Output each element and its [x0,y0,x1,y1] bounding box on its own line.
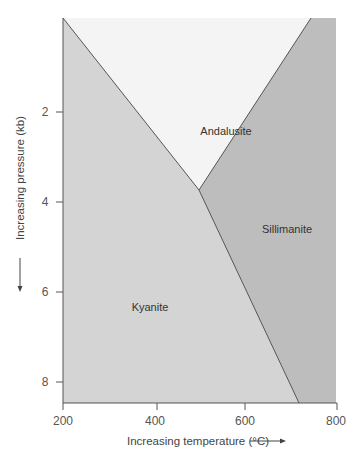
x-axis-title: Increasing temperature (°C) [127,435,269,447]
y-tick-label-2: 2 [42,105,49,119]
x-tick-label-800: 800 [326,414,346,428]
sillimanite-label: Sillimanite [262,223,312,235]
kyanite-label: Kyanite [132,301,169,313]
x-axis-arrowhead-icon [280,439,286,444]
phase-diagram: 2 4 6 8 200 400 600 800 Andalusite Silli… [0,0,357,450]
y-axis-title: Increasing pressure (kb) [14,116,26,240]
y-tick-label-6: 6 [42,285,49,299]
y-tick-label-4: 4 [42,195,49,209]
x-tick-label-600: 600 [235,414,255,428]
y-tick-label-8: 8 [42,375,49,389]
y-axis-arrowhead-icon [18,286,23,292]
andalusite-label: Andalusite [200,125,251,137]
x-tick-label-400: 400 [145,414,165,428]
x-tick-label-200: 200 [53,414,73,428]
